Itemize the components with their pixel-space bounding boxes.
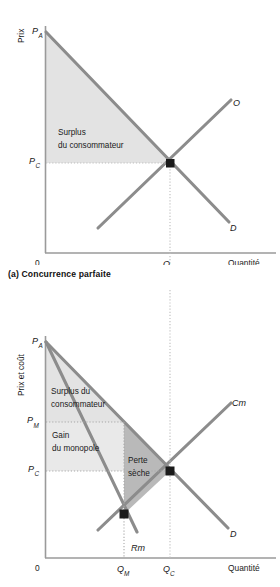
panel-b-tick-PC: P C (28, 464, 40, 477)
panel-a-y-axis-label: Prix (16, 28, 26, 43)
panel-a-tick-PA-sub: A (38, 32, 43, 39)
panel-b-tick-QM-sub: M (124, 570, 130, 577)
panel-a-tick-QC-sub: C (170, 265, 175, 266)
panel-a-curve-label-demand: D (230, 223, 237, 233)
panel-b-area-label-surplus-line1: Surplus du (51, 387, 91, 396)
panel-a-chart: Prix Quantité 0 P A P C Q C O D Surplus … (0, 0, 280, 265)
panel-b-tick-QC-base: Q (163, 564, 170, 574)
panel-a-x-axis-label: Quantité (228, 258, 260, 265)
panel-b-chart: Prix et coût Quantité 0 P A P M P C Q M … (0, 290, 280, 587)
economics-figure: Prix Quantité 0 P A P C Q C O D Surplus … (0, 0, 280, 587)
panel-a-area-label-line1: Surplus (58, 128, 86, 137)
panel-b-area-label-deadweight-line2: sèche (128, 469, 150, 478)
panel-b-tick-QC-sub: C (170, 570, 175, 577)
panel-a-tick-PC: P C (29, 156, 41, 169)
panel-b-tick-PM: P M (27, 415, 40, 429)
panel-a-tick-QC-base: Q (163, 259, 170, 265)
panel-a-tick-PA-base: P (32, 26, 38, 36)
panel-a-curve-label-supply: O (233, 98, 240, 108)
panel-a-origin-label: 0 (35, 258, 40, 265)
panel-b-tick-PM-sub: M (34, 422, 40, 429)
panel-b-tick-PA-sub: A (38, 342, 43, 349)
panel-b-tick-PA: P A (32, 336, 43, 349)
panel-b-area-label-deadweight-line1: Perte (128, 456, 148, 465)
panel-a-tick-PC-sub: C (36, 162, 41, 169)
panel-b-tick-PC-sub: C (35, 470, 40, 477)
equilibrium-point-a (166, 159, 175, 168)
panel-b-tick-QM: Q M (117, 564, 130, 577)
panel-b-curve-label-marginal-cost: Cm (232, 398, 246, 408)
panel-b-x-axis-label: Quantité (228, 563, 260, 573)
panel-a-tick-PC-base: P (29, 156, 35, 166)
panel-a-caption: (a) Concurrence parfaite (8, 269, 111, 279)
panel-a-area-label-line2: du consommateur (58, 141, 124, 150)
panel-a-tick-QC: Q C (163, 259, 175, 265)
panel-b-tick-PC-base: P (28, 464, 34, 474)
panel-b-tick-PA-base: P (32, 336, 38, 346)
competitive-point-b (166, 467, 175, 476)
panel-b-area-label-surplus-line2: consommateur (51, 400, 105, 409)
panel-b-area-label-gain-line2: du monopole (52, 444, 100, 453)
panel-b-tick-QM-base: Q (117, 564, 124, 574)
panel-a-tick-PA: P A (32, 26, 43, 39)
panel-b-tick-PM-base: P (27, 415, 33, 425)
panel-b-tick-QC: Q C (163, 564, 175, 577)
monopoly-point-b (120, 510, 129, 519)
panel-b-y-axis-label: Prix et coût (16, 353, 26, 396)
panel-b-area-label-gain-line1: Gain (52, 431, 70, 440)
panel-b-origin-label: 0 (35, 563, 40, 573)
panel-b-curve-label-marginal-revenue: Rm (131, 543, 145, 553)
panel-b-curve-label-demand: D (230, 529, 237, 539)
